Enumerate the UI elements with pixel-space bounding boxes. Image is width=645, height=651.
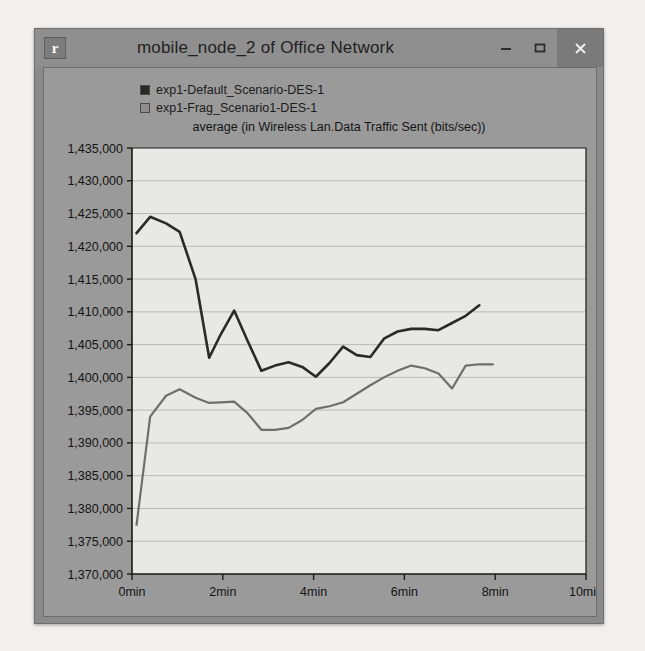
- x-tick-label: 8min: [482, 585, 509, 599]
- window-titlebar[interactable]: r mobile_node_2 of Office Network: [35, 29, 603, 67]
- legend-swatch-icon: [140, 103, 150, 113]
- x-tick-label: 0min: [118, 585, 145, 599]
- chart-window: r mobile_node_2 of Office Network: [34, 28, 604, 624]
- legend-swatch-icon: [140, 85, 150, 95]
- legend-item-label: exp1-Default_Scenario-DES-1: [156, 83, 324, 97]
- close-icon: [573, 41, 588, 56]
- chart-svg: 1,435,0001,430,0001,425,0001,420,0001,41…: [44, 140, 597, 617]
- y-tick-label: 1,400,000: [67, 371, 123, 385]
- y-tick-label: 1,420,000: [67, 240, 123, 254]
- legend-item[interactable]: exp1-Frag_Scenario1-DES-1: [140, 100, 324, 116]
- chart-title: average (in Wireless Lan.Data Traffic Se…: [44, 120, 596, 134]
- legend-item-label: exp1-Frag_Scenario1-DES-1: [156, 101, 317, 115]
- y-tick-label: 1,380,000: [67, 502, 123, 516]
- x-tick-label: 6min: [391, 585, 418, 599]
- maximize-icon: [533, 41, 547, 55]
- y-tick-label: 1,395,000: [67, 404, 123, 418]
- y-tick-label: 1,370,000: [67, 568, 123, 582]
- y-tick-label: 1,410,000: [67, 305, 123, 319]
- minimize-button[interactable]: [489, 29, 523, 67]
- chart-legend: exp1-Default_Scenario-DES-1 exp1-Frag_Sc…: [140, 82, 324, 118]
- plot-area[interactable]: 1,435,0001,430,0001,425,0001,420,0001,41…: [44, 140, 597, 617]
- y-tick-label: 1,425,000: [67, 207, 123, 221]
- minimize-icon: [499, 41, 513, 55]
- x-tick-label: 10min: [569, 585, 597, 599]
- plot-background: [132, 148, 586, 574]
- window-title: mobile_node_2 of Office Network: [42, 38, 489, 58]
- y-tick-label: 1,405,000: [67, 338, 123, 352]
- x-tick-label: 2min: [209, 585, 236, 599]
- y-tick-label: 1,430,000: [67, 174, 123, 188]
- legend-item[interactable]: exp1-Default_Scenario-DES-1: [140, 82, 324, 98]
- x-tick-label: 4min: [300, 585, 327, 599]
- y-tick-label: 1,385,000: [67, 469, 123, 483]
- close-button[interactable]: [557, 29, 603, 67]
- y-tick-label: 1,390,000: [67, 436, 123, 450]
- maximize-button[interactable]: [523, 29, 557, 67]
- desktop-backdrop: r mobile_node_2 of Office Network: [0, 0, 645, 651]
- y-tick-label: 1,375,000: [67, 535, 123, 549]
- y-tick-label: 1,415,000: [67, 273, 123, 287]
- y-tick-label: 1,435,000: [67, 142, 123, 156]
- chart-client-area: exp1-Default_Scenario-DES-1 exp1-Frag_Sc…: [43, 67, 597, 617]
